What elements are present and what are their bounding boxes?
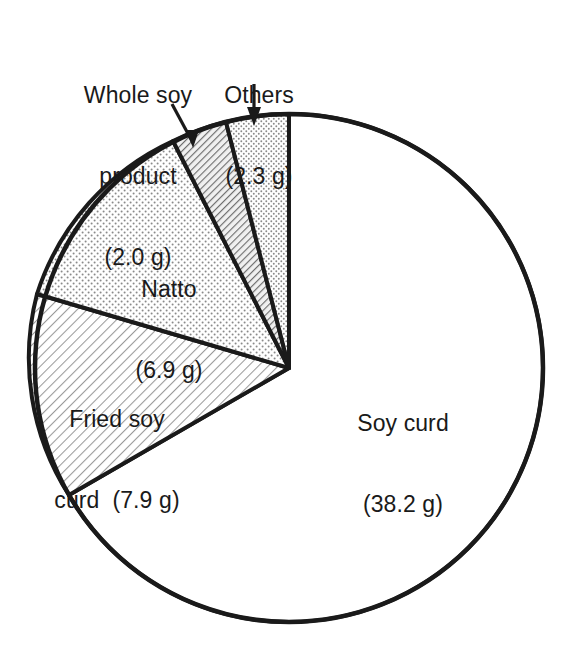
natto-name: Natto	[94, 276, 244, 303]
soy-curd-value: (38.2 g)	[318, 491, 488, 518]
fried-soy-curd-value: curd (7.9 g)	[26, 487, 208, 514]
pie-chart-figure: Whole soy product (2.0 g) Others (2.3 g)…	[0, 0, 572, 660]
slice-label-soy-curd: Soy curd (38.2 g)	[318, 356, 488, 572]
fried-soy-curd-name: Fried soy	[26, 406, 208, 433]
slice-label-fried-soy-curd: Fried soy curd (7.9 g)	[26, 352, 208, 568]
soy-curd-name: Soy curd	[318, 410, 488, 437]
others-value: (2.3 g)	[196, 163, 322, 190]
others-name: Others	[196, 82, 322, 109]
slice-label-others: Others (2.3 g)	[196, 28, 322, 244]
